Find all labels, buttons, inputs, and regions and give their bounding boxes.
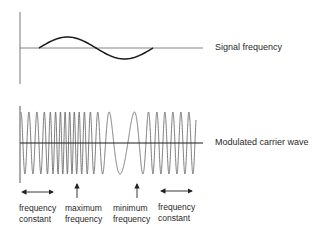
annotation-line1: minimum [113, 203, 150, 214]
annotation-freq-const-left: frequency constant [19, 203, 56, 225]
annotation-line1: frequency [19, 203, 56, 214]
annotation-max-freq: maximum frequency [65, 203, 102, 225]
annotation-line2: frequency [113, 214, 150, 225]
annotation-line1: maximum [65, 203, 102, 214]
carrier-panel [20, 106, 203, 183]
annotation-line1: frequency [158, 202, 195, 213]
annotation-min-freq: minimum frequency [113, 203, 150, 225]
signal-frequency-label: Signal frequency [215, 42, 282, 53]
annotation-line2: constant [19, 214, 56, 225]
signal-panel [20, 12, 203, 84]
annotation-line2: frequency [65, 214, 102, 225]
annotation-freq-const-right: frequency constant [158, 202, 195, 224]
modulated-carrier-label: Modulated carrier wave [215, 137, 309, 148]
annotation-line2: constant [158, 213, 195, 224]
